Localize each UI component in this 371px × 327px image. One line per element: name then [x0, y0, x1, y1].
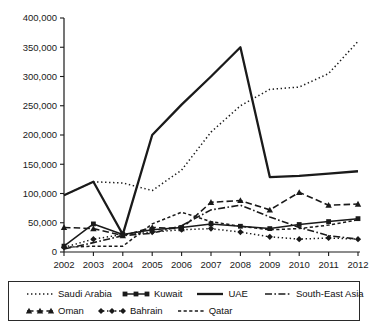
data-point-marker: [120, 307, 126, 313]
legend-item-kuwait[interactable]: Kuwait: [122, 288, 183, 299]
legend-label-uae: UAE: [228, 288, 248, 299]
legend-swatch-qatar: [177, 306, 205, 316]
data-point-marker: [355, 236, 361, 242]
x-tick-label: 2006: [171, 259, 192, 270]
legend-swatch-oman: [26, 306, 54, 316]
chart-legend: Saudi ArabiaKuwaitUAESouth-East Asia Oma…: [8, 281, 360, 321]
x-tick-label: 2008: [230, 259, 251, 270]
legend-label-saudi-arabia: Saudi Arabia: [58, 288, 112, 299]
series-line: [64, 41, 358, 195]
x-tick-label: 2005: [142, 259, 163, 270]
data-point-marker: [109, 307, 115, 313]
legend-swatch-uae: [196, 289, 224, 299]
series-line: [64, 47, 358, 234]
x-tick-label: 2009: [259, 259, 280, 270]
x-tick-label: 2003: [83, 259, 104, 270]
legend-row-1: Saudi ArabiaKuwaitUAESouth-East Asia: [14, 285, 354, 302]
data-point-marker: [122, 291, 127, 296]
y-tick-label: 150,000: [23, 159, 57, 170]
y-tick-label: 250,000: [23, 100, 57, 111]
data-point-marker: [237, 229, 243, 235]
x-tick-label: 2007: [200, 259, 221, 270]
y-tick-label: 0: [52, 246, 57, 257]
y-tick-label: 100,000: [23, 188, 57, 199]
y-tick-label: 200,000: [23, 129, 57, 140]
x-tick-label: 2004: [112, 259, 133, 270]
x-tick-label: 2002: [53, 259, 74, 270]
legend-item-bahrain[interactable]: Bahrain: [98, 305, 163, 316]
y-tick-label: 400,000: [23, 12, 57, 23]
legend-label-bahrain: Bahrain: [130, 305, 163, 316]
legend-swatch-saudi-arabia: [26, 289, 54, 299]
legend-swatch-kuwait: [122, 289, 150, 299]
legend-swatch-bahrain: [98, 306, 126, 316]
legend-item-qatar[interactable]: Qatar: [177, 305, 233, 316]
x-tick-label: 2012: [347, 259, 368, 270]
y-tick-label: 50,000: [28, 217, 57, 228]
legend-label-kuwait: Kuwait: [154, 288, 183, 299]
data-point-marker: [144, 291, 149, 296]
line-chart: 050,000100,000150,000200,000250,000300,0…: [0, 0, 371, 327]
x-tick-label: 2010: [289, 259, 310, 270]
series-saudi-arabia: [64, 41, 358, 195]
legend-label-qatar: Qatar: [209, 305, 233, 316]
legend-label-south-east-asia: South-East Asia: [296, 288, 364, 299]
legend-swatch-south-east-asia: [264, 289, 292, 299]
chart-plot-area: 050,000100,000150,000200,000250,000300,0…: [0, 0, 371, 327]
data-point-marker: [296, 236, 302, 242]
y-tick-label: 300,000: [23, 71, 57, 82]
legend-item-uae[interactable]: UAE: [196, 288, 248, 299]
legend-label-oman: Oman: [58, 305, 84, 316]
legend-row-2: OmanBahrainQatar: [14, 302, 354, 319]
data-point-marker: [326, 219, 331, 224]
data-point-marker: [208, 226, 214, 232]
data-point-marker: [267, 234, 273, 240]
data-point-marker: [98, 307, 104, 313]
series-uae: [64, 47, 358, 234]
legend-item-oman[interactable]: Oman: [26, 305, 84, 316]
legend-item-saudi-arabia[interactable]: Saudi Arabia: [26, 288, 112, 299]
legend-item-south-east-asia[interactable]: South-East Asia: [264, 288, 364, 299]
x-tick-label: 2011: [318, 259, 338, 270]
data-point-marker: [133, 291, 138, 296]
data-point-marker: [296, 189, 302, 195]
y-tick-label: 350,000: [23, 42, 57, 53]
